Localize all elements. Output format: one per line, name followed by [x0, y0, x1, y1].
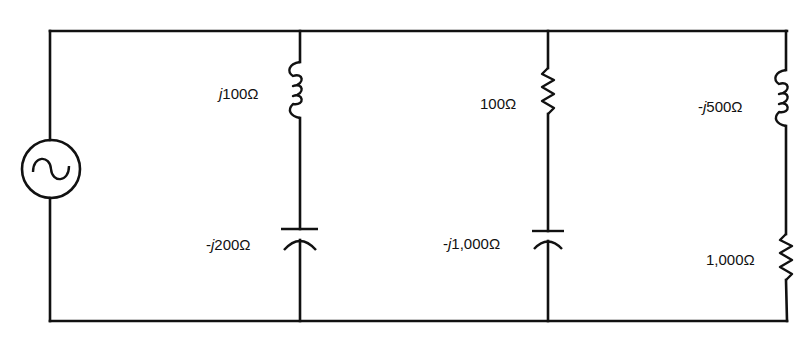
ac-source-icon: [22, 140, 80, 198]
inductor-icon: [775, 70, 787, 126]
label-resistor-100: 100Ω: [480, 96, 516, 111]
label-capacitor-j1000: -j1,000Ω: [443, 236, 500, 251]
wires: [50, 31, 787, 321]
label-inductor-j100: j100Ω: [219, 86, 259, 101]
branch-1: [281, 31, 318, 321]
circuit-diagram: [0, 0, 808, 343]
label-capacitor-j200: -j200Ω: [206, 237, 251, 252]
branch-3: [775, 31, 792, 321]
label-inductor-j500: -j500Ω: [698, 99, 743, 114]
label-resistor-1000: 1,000Ω: [706, 252, 755, 267]
resistor-icon: [542, 68, 554, 114]
inductor-icon: [289, 62, 301, 118]
resistor-icon: [780, 234, 792, 280]
branch-2: [532, 31, 564, 321]
